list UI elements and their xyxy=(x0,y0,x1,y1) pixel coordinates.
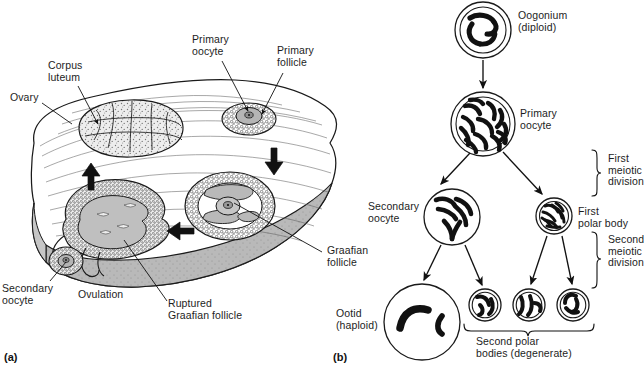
cell-first-polar-body xyxy=(536,198,572,234)
arrow-first-polar-to-polar-2 xyxy=(531,236,547,284)
arrow-secondary-to-polar-1 xyxy=(465,245,482,285)
cell-second-polar-body-2 xyxy=(513,289,545,321)
label-primary-oocyte-b: Primary oocyte xyxy=(520,108,557,131)
panel-b-arrows xyxy=(424,60,572,285)
label-second-polar-bodies: Second polar bodies (degenerate) xyxy=(476,336,572,359)
label-secondary-oocyte-b: Secondary oocyte xyxy=(368,201,419,224)
cell-oogonium xyxy=(455,2,511,58)
label-oogonium: Oogonium (diploid) xyxy=(518,10,567,33)
arrow-primary-to-first-polar xyxy=(503,152,542,194)
label-ootid: Ootid (haploid) xyxy=(336,308,378,331)
cell-secondary-oocyte xyxy=(424,189,480,245)
cell-second-polar-body-1 xyxy=(469,289,501,321)
arrow-primary-to-secondary xyxy=(441,153,470,184)
arrow-secondary-to-ootid xyxy=(424,245,441,280)
panel-b-caption: (b) xyxy=(333,351,347,363)
label-first-polar-body: First polar body xyxy=(578,206,628,229)
cell-primary-oocyte xyxy=(451,92,515,156)
label-second-meiotic-division: Second meiotic division xyxy=(608,234,644,269)
cell-second-polar-body-3 xyxy=(557,289,589,321)
arrow-first-polar-to-polar-3 xyxy=(562,236,572,284)
label-first-meiotic-division: First meiotic division xyxy=(608,153,644,188)
cell-ootid xyxy=(384,284,460,360)
bracket-second-meiotic-division xyxy=(592,232,601,288)
bracket-first-meiotic-division xyxy=(592,150,601,196)
